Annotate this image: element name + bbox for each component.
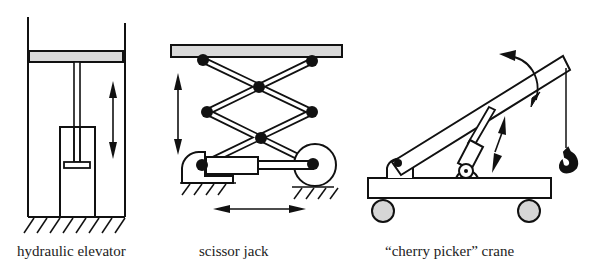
- caption-hydraulic-elevator: hydraulic elevator: [17, 243, 126, 260]
- ground-hatch-icon: [24, 218, 125, 233]
- crane-right-wheel: [518, 200, 540, 222]
- crane-boom: [392, 56, 570, 175]
- boom-pivot-joint: [394, 159, 402, 167]
- jack-platform: [171, 45, 342, 57]
- scissor-jack: [171, 45, 342, 213]
- crane-left-wheel: [372, 200, 394, 222]
- jack-cylinder-rod: [258, 161, 313, 169]
- crane-cart: [368, 178, 551, 198]
- scissor-arms: [202, 60, 313, 165]
- elevator-platform: [29, 51, 123, 62]
- cherry-picker-crane: [368, 50, 577, 222]
- vertical-motion-arrow-icon: [174, 73, 182, 155]
- jack-cylinder: [206, 157, 258, 174]
- cylinder-motion-arrow-icon: [492, 116, 506, 173]
- caption-scissor-jack: scissor jack: [199, 243, 269, 260]
- mechanisms-diagram: [0, 0, 593, 275]
- vertical-motion-arrow-icon: [109, 81, 117, 159]
- elevator-piston: [64, 162, 90, 168]
- hydraulic-elevator: [24, 17, 125, 233]
- crane-hook-icon: [560, 148, 577, 172]
- elevator-piston-rod: [74, 62, 80, 162]
- caption-cherry-picker-crane: “cherry picker” crane: [385, 243, 514, 260]
- horizontal-motion-arrow-icon: [213, 205, 306, 213]
